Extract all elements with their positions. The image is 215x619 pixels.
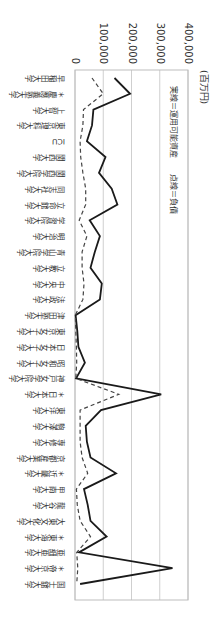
series-line-assets (76, 78, 173, 584)
series-line-liabilities (75, 78, 119, 584)
x-category-label: 専修大学 (33, 437, 66, 446)
x-category-label: 龍谷大学 (33, 500, 66, 509)
x-category-label: 神戸女学院大学 (9, 374, 66, 383)
x-category-label: 大東文化大学 (17, 516, 66, 525)
y-tick-label: 200,000 (127, 23, 138, 64)
x-category-label: 国士舘大学 (25, 580, 65, 589)
x-category-label: 亜細亜大学 (25, 548, 65, 557)
x-category-label: 中央大学 (33, 279, 66, 288)
x-category-label: 早稲田大学 (25, 74, 65, 83)
x-category-label: ＊慶應義塾大学 (9, 89, 65, 98)
y-tick-label: 400,000 (183, 23, 194, 64)
x-category-label: 同志社大学 (25, 184, 65, 193)
x-category-label: 日本女子大学 (17, 342, 65, 351)
x-category-label: 津田塾大学 (25, 311, 65, 320)
x-category-label: 東京女子大学 (17, 327, 66, 336)
x-category-label: 東洋大学 (33, 406, 66, 415)
unit-label: (百万円) (199, 70, 209, 104)
x-category-label: ICU (52, 137, 65, 146)
rotated-chart-container: 0100,000200,000300,000400,000 (百万円) 実線＝運… (0, 0, 215, 619)
x-category-label: 立教大学 (33, 263, 66, 272)
x-category-label: 東京理科大学 (17, 121, 66, 130)
x-category-label: 法政大学 (33, 295, 66, 304)
line-chart: 0100,000200,000300,000400,000 (百万円) 実線＝運… (0, 0, 215, 619)
y-axis-ticks: 0100,000200,000300,000400,000 (70, 23, 194, 64)
x-category-label: 甲南大学 (33, 485, 65, 494)
x-category-label: ＊近畿大学 (25, 469, 65, 478)
x-category-label: 上智大学 (33, 105, 65, 114)
y-tick-label: 100,000 (98, 23, 109, 64)
x-category-label: 関西学院大学 (17, 168, 65, 177)
x-category-label: 京都産業大学 (17, 453, 66, 462)
legend: 実線＝運用可能資産 点線＝負債 (169, 86, 179, 214)
x-category-label: 駒澤大学 (33, 421, 66, 430)
x-category-label: 学習院大学 (25, 216, 66, 225)
y-tick-label: 0 (70, 58, 81, 64)
x-category-label: 青山学院大学 (17, 247, 66, 256)
x-category-label: ＊東海大学 (25, 532, 65, 541)
x-category-label: ＊帝京大学 (25, 564, 65, 573)
x-category-label: 明治大学 (33, 232, 65, 241)
x-category-label: 立命館大学 (25, 200, 66, 209)
x-category-label: 関西大学 (33, 153, 65, 162)
y-tick-label: 300,000 (155, 23, 166, 64)
x-category-label: ＊日本大学 (25, 390, 65, 399)
x-axis-category-labels: 早稲田大学＊慶應義塾大学上智大学東京理科大学ICU関西大学関西学院大学同志社大学… (9, 74, 66, 589)
x-category-label: 昭和女子大学 (17, 358, 65, 367)
